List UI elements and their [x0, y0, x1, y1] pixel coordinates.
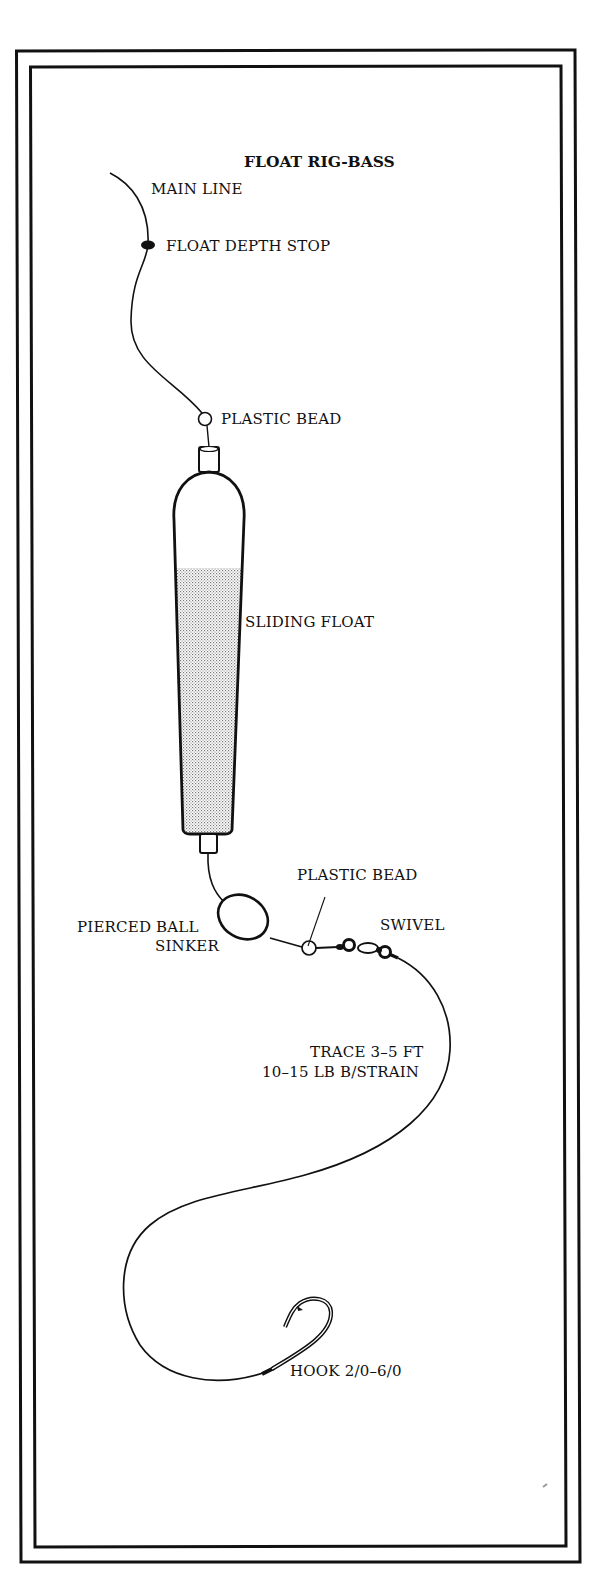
label-pierced-ball-line1: PIERCED BALL — [77, 918, 199, 936]
label-main-line: MAIN LINE — [151, 180, 243, 198]
stray-mark — [543, 1484, 547, 1487]
float-rig-bass-diagram: FLOAT RIG-BASS MAIN LINE FLOAT DEPTH STO… — [0, 0, 607, 1588]
trace-line — [124, 958, 451, 1380]
diagram-title: FLOAT RIG-BASS — [244, 152, 395, 171]
label-plastic-bead-top: PLASTIC BEAD — [221, 410, 342, 428]
label-swivel: SWIVEL — [380, 916, 445, 934]
pierced-ball-sinker-icon — [210, 886, 276, 948]
label-hook: HOOK 2/0–6/0 — [290, 1362, 402, 1380]
label-float-depth-stop: FLOAT DEPTH STOP — [166, 237, 330, 255]
label-pierced-ball-line2: SINKER — [155, 937, 219, 955]
float-depth-stop-icon — [141, 241, 155, 250]
sliding-float-icon — [170, 447, 250, 854]
inner-frame — [31, 66, 567, 1547]
label-sliding-float: SLIDING FLOAT — [245, 613, 374, 631]
label-trace-line1: TRACE 3–5 FT — [310, 1043, 424, 1061]
outer-frame — [17, 50, 581, 1562]
float-to-sinker-line — [208, 853, 224, 902]
label-plastic-bead-bottom: PLASTIC BEAD — [297, 866, 418, 884]
swivel-icon — [316, 940, 398, 959]
main-line — [110, 173, 202, 413]
plastic-bead-top-icon — [199, 413, 212, 426]
label-trace-line2: 10–15 LB B/STRAIN — [262, 1063, 419, 1081]
